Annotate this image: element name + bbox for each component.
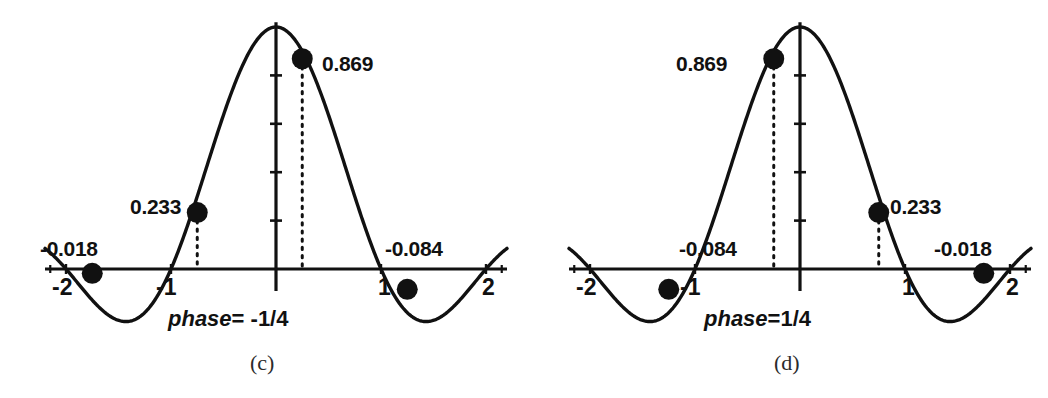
phase-caption: phase= -1/4 — [168, 308, 288, 330]
point-value-label: -0.018 — [40, 238, 98, 259]
x-tick-label: -2 — [576, 276, 596, 299]
figure-root: -0.018 0.233 0.869 -0.084 -2 -1 1 2 phas… — [0, 0, 1048, 398]
sinc-plot-d — [524, 0, 1048, 398]
x-tick-label: 2 — [482, 276, 495, 299]
x-tick-label: 2 — [1006, 276, 1019, 299]
point-value-label: 0.869 — [676, 53, 727, 74]
x-tick-label: -1 — [680, 276, 700, 299]
chart-panel-c: -0.018 0.233 0.869 -0.084 -2 -1 1 2 phas… — [0, 0, 524, 398]
phase-caption: phase=1/4 — [704, 308, 811, 330]
x-tick-label: 1 — [378, 276, 391, 299]
point-value-label: -0.084 — [385, 238, 443, 259]
x-tick-label: -1 — [156, 276, 176, 299]
x-tick-label: 1 — [902, 276, 915, 299]
phase-value: = -1/4 — [232, 306, 289, 331]
point-value-label: 0.869 — [322, 53, 373, 74]
point-value-label: 0.233 — [130, 196, 181, 217]
phase-value: =1/4 — [768, 306, 811, 331]
chart-panel-d: -0.084 0.869 0.233 -0.018 -2 -1 1 2 phas… — [524, 0, 1048, 398]
point-value-label: -0.084 — [679, 238, 737, 259]
panel-sub-label: (c) — [250, 352, 274, 374]
panel-sub-label: (d) — [774, 352, 800, 374]
point-value-label: 0.233 — [890, 196, 941, 217]
point-value-label: -0.018 — [934, 238, 992, 259]
sinc-plot-c — [0, 0, 524, 398]
phase-word: phase — [704, 306, 768, 331]
phase-word: phase — [168, 306, 232, 331]
x-tick-label: -2 — [52, 276, 72, 299]
